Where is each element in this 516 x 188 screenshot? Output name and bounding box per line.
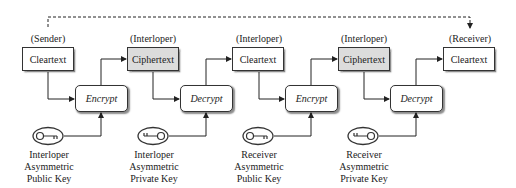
key-type: Private Key <box>329 173 399 185</box>
key-label: Interloper Asymmetric Private Key <box>119 149 189 185</box>
private-key-icon <box>137 126 171 146</box>
key-owner: Receiver <box>329 149 399 161</box>
decrypt-step: Decrypt <box>390 85 443 112</box>
role-label-receiver: (Receiver) <box>435 33 505 45</box>
key-type: Public Key <box>224 173 294 185</box>
key-owner: Receiver <box>224 149 294 161</box>
cleartext-box-receiver: Cleartext <box>443 47 495 71</box>
key-owner: Interloper <box>14 149 84 161</box>
decrypt-step: Decrypt <box>180 85 233 112</box>
key-label: Receiver Asymmetric Public Key <box>224 149 294 185</box>
key-type: Public Key <box>14 173 84 185</box>
dashed-bypass-arrow <box>48 17 470 28</box>
role-label-interloper: (Interloper) <box>329 33 399 45</box>
public-key-icon <box>242 126 276 146</box>
key-kind: Asymmetric <box>14 161 84 173</box>
public-key-icon <box>32 126 66 146</box>
private-key-icon <box>347 126 381 146</box>
key-label: Receiver Asymmetric Private Key <box>329 149 399 185</box>
role-label-sender: (Sender) <box>13 33 83 45</box>
cleartext-box-interloper: Cleartext <box>232 47 284 71</box>
ciphertext-box: Ciphertext <box>338 47 390 71</box>
key-type: Private Key <box>119 173 189 185</box>
cleartext-box-sender: Cleartext <box>22 47 74 71</box>
ciphertext-box: Ciphertext <box>127 47 179 71</box>
encrypt-step: Encrypt <box>75 85 128 112</box>
key-kind: Asymmetric <box>329 161 399 173</box>
role-label-interloper: (Interloper) <box>118 33 188 45</box>
encrypt-step: Encrypt <box>285 85 338 112</box>
role-label-interloper: (Interloper) <box>224 33 294 45</box>
key-owner: Interloper <box>119 149 189 161</box>
key-kind: Asymmetric <box>224 161 294 173</box>
key-label: Interloper Asymmetric Public Key <box>14 149 84 185</box>
key-kind: Asymmetric <box>119 161 189 173</box>
